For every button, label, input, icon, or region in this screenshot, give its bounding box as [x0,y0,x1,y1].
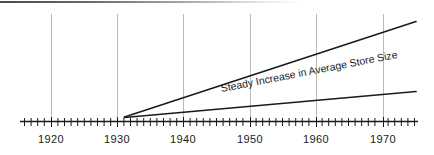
x-tick-label-1950: 1950 [227,133,273,145]
series-line-lower-trend [125,92,417,118]
x-tick-label-1940: 1940 [160,133,206,145]
chart-container: Steady Increase in Average Store Size 19… [0,0,434,155]
x-tick-label-1930: 1930 [94,133,140,145]
x-tick-label-1920: 1920 [28,133,74,145]
chart-plot-area [0,0,434,155]
x-tick-label-1960: 1960 [293,133,339,145]
x-tick-label-1970: 1970 [360,133,406,145]
series-line-upper-trend [125,22,417,118]
